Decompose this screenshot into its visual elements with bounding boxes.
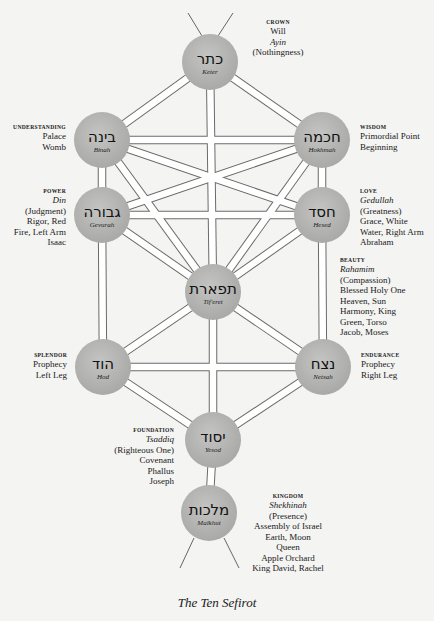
label-netsah: ENDURANCEProphecyRight Leg	[361, 351, 434, 380]
label-line: Earth, Moon	[238, 532, 338, 543]
label-line: Queen	[238, 542, 338, 553]
label-hebrew-term: Rahamim	[340, 264, 434, 275]
label-line: (Nothingness)	[248, 47, 308, 58]
sefirah-binah: בינהBinah	[74, 112, 130, 168]
label-binah: UNDERSTANDINGPalaceWomb	[0, 123, 66, 152]
label-category: ENDURANCE	[361, 351, 434, 359]
figure-caption: The Ten Sefirot	[0, 595, 434, 611]
hebrew-name: מלכות	[189, 501, 230, 519]
label-line: Beginning	[360, 142, 434, 153]
hebrew-name: הוד	[92, 355, 114, 373]
label-hebrew-term: Shekhinah	[238, 500, 338, 511]
sefirah-hokhmah: חכמהHokhmah	[294, 112, 350, 168]
label-line: Primordial Point	[360, 131, 434, 142]
label-line: Green, Torso	[340, 317, 434, 328]
label-yesod: FOUNDATIONTsaddiq(Righteous One)Covenant…	[60, 426, 174, 487]
label-line: Fire, Left Arm	[0, 227, 66, 238]
sefirah-hesed: חסדHesed	[294, 187, 350, 243]
hebrew-name: כתר	[197, 50, 223, 68]
label-category: BEAUTY	[340, 256, 434, 264]
label-line: Prophecy	[0, 359, 67, 370]
transliterated-name: Keter	[201, 68, 218, 76]
label-hebrew-term: Tsaddiq	[60, 434, 174, 445]
label-line: Harmony, King	[340, 306, 434, 317]
label-category: UNDERSTANDING	[0, 123, 66, 131]
label-line: Womb	[0, 142, 66, 153]
label-hesed: LOVEGedullah(Greatness)Grace, WhiteWater…	[360, 187, 434, 248]
label-line: (Righteous One)	[60, 445, 174, 456]
label-category: POWER	[0, 187, 66, 195]
label-line: Phallus	[60, 466, 174, 477]
label-line: Left Leg	[0, 370, 67, 381]
transliterated-name: Malkhut	[196, 519, 221, 527]
hebrew-name: נצח	[311, 355, 336, 373]
label-line: Abraham	[360, 237, 434, 248]
transliterated-name: Netsah	[312, 373, 333, 381]
label-tiferet: BEAUTYRahamim(Compassion)Blessed Holy On…	[340, 256, 434, 338]
label-line: Rigor, Red	[0, 216, 66, 227]
label-line: Jacob, Moses	[340, 327, 434, 338]
transliterated-name: Gevurah	[90, 221, 115, 229]
sefirah-yesod: יסודYesod	[185, 412, 241, 468]
label-line: Right Leg	[361, 370, 434, 381]
label-line: Will	[248, 26, 308, 37]
label-hokhmah: WISDOMPrimordial PointBeginning	[360, 123, 434, 152]
hebrew-name: תפארת	[189, 280, 237, 298]
label-line: Prophecy	[361, 359, 434, 370]
hebrew-name: יסוד	[200, 428, 225, 446]
label-line: Blessed Holy One	[340, 285, 434, 296]
label-line: Apple Orchard	[238, 553, 338, 564]
label-line: (Judgment)	[0, 206, 66, 217]
label-gevurah: POWERDin(Judgment)Rigor, RedFire, Left A…	[0, 187, 66, 248]
label-line: Isaac	[0, 237, 66, 248]
label-category: KINGDOM	[238, 492, 338, 500]
hebrew-name: חסד	[308, 203, 336, 221]
transliterated-name: Binah	[94, 146, 111, 154]
transliterated-name: Hesed	[312, 221, 331, 229]
label-malkhut: KINGDOMShekhinah(Presence)Assembly of Is…	[238, 492, 338, 574]
sefirah-malkhut: מלכותMalkhut	[181, 485, 237, 541]
label-category: SPLENDOR	[0, 351, 67, 359]
label-category: WISDOM	[360, 123, 434, 131]
label-hod: SPLENDORProphecyLeft Leg	[0, 351, 67, 380]
sefirah-gevurah: גבורהGevurah	[74, 187, 130, 243]
label-line: Water, Right Arm	[360, 227, 434, 238]
sefirah-netsah: נצחNetsah	[295, 339, 351, 395]
label-line: Assembly of Israel	[238, 521, 338, 532]
label-line: (Presence)	[238, 511, 338, 522]
transliterated-name: Hod	[96, 373, 110, 381]
label-hebrew-term: Din	[0, 195, 66, 206]
hebrew-name: גבורה	[83, 203, 120, 221]
transliterated-name: Yesod	[205, 446, 222, 454]
label-category: FOUNDATION	[60, 426, 174, 434]
label-line: Heaven, Sun	[340, 296, 434, 307]
label-hebrew-term: Gedullah	[360, 195, 434, 206]
transliterated-name: Hokhmah	[307, 146, 336, 154]
label-line: Covenant	[60, 455, 174, 466]
transliterated-name: Tif'eret	[203, 298, 224, 306]
hebrew-name: בינה	[88, 128, 116, 146]
label-category: LOVE	[360, 187, 434, 195]
label-line: (Greatness)	[360, 206, 434, 217]
label-line: King David, Rachel	[238, 563, 338, 574]
label-line: Grace, White	[360, 216, 434, 227]
label-line: Joseph	[60, 476, 174, 487]
label-hebrew-term: Ayin	[248, 37, 308, 48]
sefirah-tiferet: תפארתTif'eret	[185, 264, 241, 320]
sefirah-hod: הודHod	[75, 339, 131, 395]
label-keter: CROWNWillAyin(Nothingness)	[248, 18, 308, 58]
label-line: Palace	[0, 131, 66, 142]
hebrew-name: חכמה	[303, 128, 341, 146]
label-category: CROWN	[248, 18, 308, 26]
sefirah-keter: כתרKeter	[182, 34, 238, 90]
label-line: (Compassion)	[340, 275, 434, 286]
